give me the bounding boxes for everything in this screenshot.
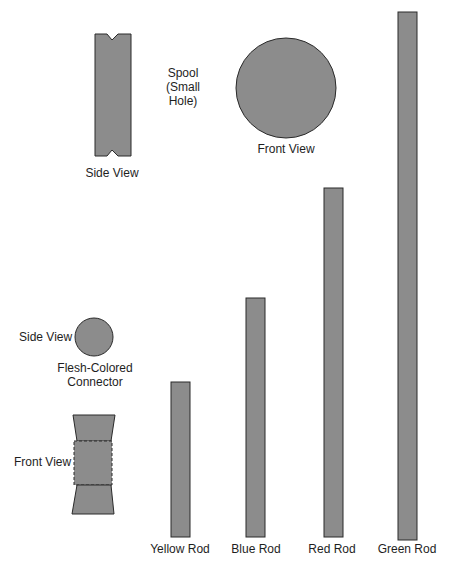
blue-rod-shape [246,298,265,537]
red-rod-shape [324,188,343,537]
spool-title: Spool (Small Hole) [163,66,203,108]
spool-side-view-label: Side View [80,166,144,180]
green-rod-label: Green Rod [364,542,450,556]
green-rod-shape [398,12,417,540]
spool-side-view-shape [95,34,131,156]
connector-name: Flesh-Colored Connector [50,361,140,389]
spool-front-view-shape [236,38,336,138]
spool-subtitle-line1: (Small [163,80,203,94]
connector-side-view-shape [75,318,113,356]
yellow-rod-label: Yellow Rod [140,542,220,556]
spool-front-view-label: Front View [246,142,326,156]
spool-title-line: Spool [163,66,203,80]
red-rod-label: Red Rod [292,542,372,556]
connector-side-view-label: Side View [19,330,72,344]
yellow-rod-shape [171,382,190,537]
blue-rod-label: Blue Rod [216,542,296,556]
connector-name-line1: Flesh-Colored [50,361,140,375]
parts-diagram [0,0,450,570]
spool-subtitle-line2: Hole) [163,94,203,108]
connector-name-line2: Connector [50,375,140,389]
connector-front-view-label: Front View [14,455,71,469]
connector-front-view-shape [72,415,115,514]
